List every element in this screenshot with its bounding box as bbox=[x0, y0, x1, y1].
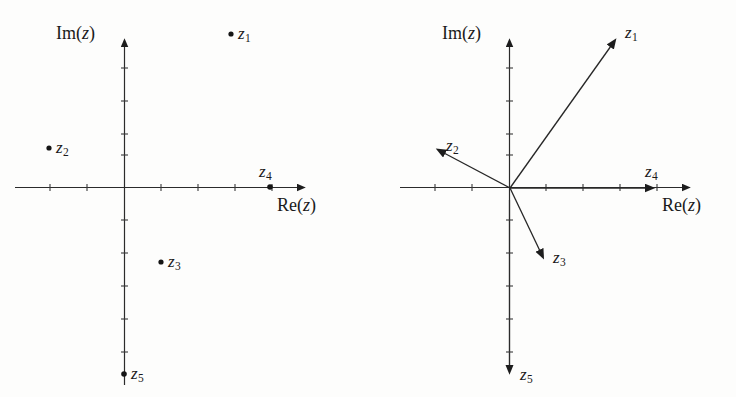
vector-label-z2: z2 bbox=[446, 137, 459, 157]
imaginary-axis-label: Im(z) bbox=[56, 24, 95, 42]
real-axis-left bbox=[15, 184, 298, 191]
vector-z3 bbox=[510, 188, 540, 251]
vector-label-z4: z4 bbox=[645, 163, 658, 183]
vectors-panel: Im(z) Re(z) z1 z2 z3 z4 z5 bbox=[368, 0, 736, 397]
real-axis-label: Re(z) bbox=[662, 196, 701, 214]
data-point-z4 bbox=[267, 184, 273, 190]
real-axis-label: Re(z) bbox=[277, 196, 316, 214]
point-label-z3: z3 bbox=[168, 253, 181, 273]
data-point-z2 bbox=[46, 145, 51, 150]
data-point-z5 bbox=[121, 371, 127, 377]
points-panel: Im(z) Re(z) z1 z2 z3 z4 z5 bbox=[0, 0, 368, 397]
imaginary-axis-label: Im(z) bbox=[442, 24, 481, 42]
data-point-z3 bbox=[158, 259, 163, 264]
point-label-z5: z5 bbox=[131, 365, 144, 385]
point-label-z4: z4 bbox=[259, 163, 272, 183]
vector-z2 bbox=[444, 153, 510, 188]
imaginary-axis-right bbox=[506, 46, 513, 366]
vector-label-z5: z5 bbox=[520, 366, 533, 386]
point-label-z2: z2 bbox=[56, 139, 69, 159]
vector-label-z1: z1 bbox=[625, 24, 638, 44]
point-label-z1: z1 bbox=[238, 25, 251, 45]
complex-plane-figure: Im(z) Re(z) z1 z2 z3 z4 z5 bbox=[0, 0, 736, 397]
vector-label-z3: z3 bbox=[553, 249, 566, 269]
imaginary-axis-left bbox=[121, 46, 128, 385]
data-point-z1 bbox=[228, 31, 233, 36]
vector-z1 bbox=[510, 46, 611, 188]
